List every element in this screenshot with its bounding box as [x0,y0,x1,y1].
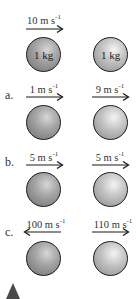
velocity-exponent: -1 [118,82,124,90]
arrow-right-icon [92,228,130,236]
arrow-right-icon [26,93,64,101]
ball-right-a [93,105,128,140]
ball-left-initial: 1 kg [26,37,61,72]
ball-left-c [26,241,61,276]
ball-left-b [26,172,61,207]
option-label-a: a. [5,88,13,103]
velocity-exponent: -1 [52,82,58,90]
velocity-exponent: -1 [118,150,124,158]
ball-left-a [26,105,61,140]
velocity-exponent: -1 [60,217,66,225]
mass-label: 1 kg [34,49,53,61]
velocity-exponent: -1 [55,13,61,21]
arrow-right-icon [92,93,130,101]
ball-right-initial: 1 kg [93,37,128,72]
arrow-right-icon [26,25,64,33]
option-label-b: b. [5,155,14,170]
mass-label: 1 kg [101,49,120,61]
velocity-exponent: -1 [52,150,58,158]
arrow-right-icon [92,161,130,169]
triangle-marker-icon [6,283,20,299]
velocity-exponent: -1 [127,217,133,225]
arrow-right-icon [26,161,64,169]
option-label-c: c. [5,225,13,240]
ball-right-c [93,241,128,276]
arrow-left-icon [24,228,62,236]
ball-right-b [93,172,128,207]
